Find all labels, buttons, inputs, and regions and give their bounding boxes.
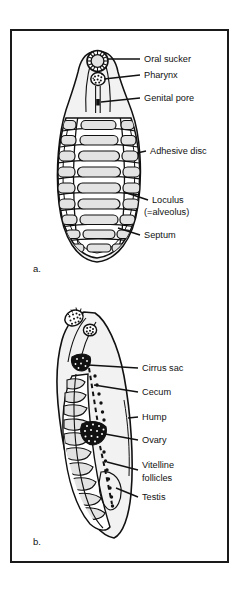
pharynx-b	[83, 324, 96, 336]
panel-a-organism: a.	[33, 51, 140, 275]
panel-b-label-texts: Cirrus sac Cecum Hump Ovary Vitelline fo…	[142, 363, 184, 502]
label-testis: Testis	[142, 492, 166, 502]
label-loculus: Loculus	[152, 195, 184, 205]
label-genital-pore: Genital pore	[144, 93, 194, 103]
label-adhesive-disc: Adhesive disc	[150, 146, 207, 156]
label-vitelline-line2: follicles	[142, 473, 173, 483]
label-cecum: Cecum	[142, 387, 171, 397]
oral-sucker	[87, 51, 108, 72]
label-septum: Septum	[144, 230, 176, 240]
panel-b-letter: b.	[33, 536, 41, 547]
label-oral-sucker: Oral sucker	[144, 54, 191, 64]
leader-hump	[128, 417, 138, 418]
panel-b-organism: b.	[33, 307, 132, 547]
panel-a-letter: a.	[33, 263, 41, 274]
panel-a-label-texts: Oral sucker Pharynx Genital pore Adhesiv…	[144, 54, 207, 240]
figure-page: a. Oral sucker Pharynx Genital pore Adhe…	[0, 0, 244, 590]
label-hump: Hump	[142, 412, 167, 422]
pharynx	[91, 73, 105, 86]
anatomical-diagram: a. Oral sucker Pharynx Genital pore Adhe…	[0, 0, 244, 590]
label-pharynx: Pharynx	[144, 70, 178, 80]
label-vitelline-line1: Vitelline	[142, 460, 174, 470]
genital-pore	[96, 99, 100, 106]
loculi-median-group	[78, 121, 121, 253]
label-cirrus-sac: Cirrus sac	[142, 363, 184, 373]
label-loculus-alt: (=alveolus)	[144, 207, 189, 217]
label-ovary: Ovary	[142, 435, 167, 445]
cirrus-sac	[72, 354, 91, 371]
